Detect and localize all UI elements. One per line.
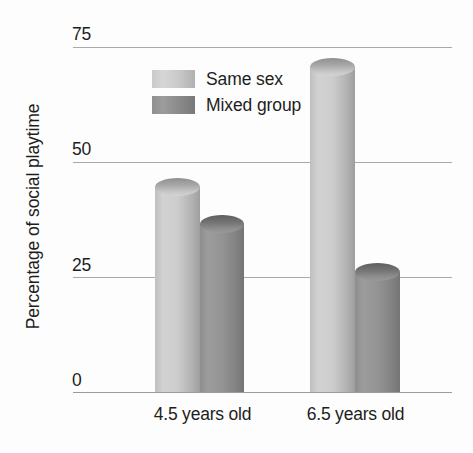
bar-same-sex-6-5-years-old[interactable]	[310, 58, 355, 392]
bar-chart: Percentage of social playtime 75 50 25 0	[0, 0, 473, 453]
bar-cap	[355, 263, 400, 281]
bar-same-sex-4-5-years-old[interactable]	[155, 178, 200, 392]
legend-swatch-same-sex	[152, 70, 195, 88]
bar-mixed-group-4-5-years-old[interactable]	[200, 215, 244, 392]
gridline-50	[73, 162, 452, 163]
legend-item-same-sex[interactable]: Same sex	[152, 66, 301, 92]
legend-swatch-mixed-group	[152, 96, 195, 114]
legend-label-mixed-group: Mixed group	[206, 95, 301, 116]
x-tick-label-4-5-years-old: 4.5 years old	[125, 404, 280, 425]
bar-body	[355, 272, 400, 392]
bar-body	[200, 224, 244, 392]
y-tick-label-75: 75	[72, 26, 91, 44]
bar-cap	[155, 178, 200, 196]
legend-item-mixed-group[interactable]: Mixed group	[152, 92, 301, 118]
bar-mixed-group-6-5-years-old[interactable]	[355, 263, 400, 392]
gridline-0-baseline	[73, 392, 452, 393]
bar-cap	[200, 215, 244, 233]
x-tick-label-6-5-years-old: 6.5 years old	[278, 404, 433, 425]
bar-cap	[310, 58, 355, 76]
gridline-75	[73, 47, 452, 48]
legend: Same sex Mixed group	[152, 66, 301, 118]
legend-label-same-sex: Same sex	[206, 69, 283, 90]
bar-body	[155, 187, 200, 392]
y-axis-title: Percentage of social playtime	[23, 67, 44, 367]
bar-body	[310, 67, 355, 392]
